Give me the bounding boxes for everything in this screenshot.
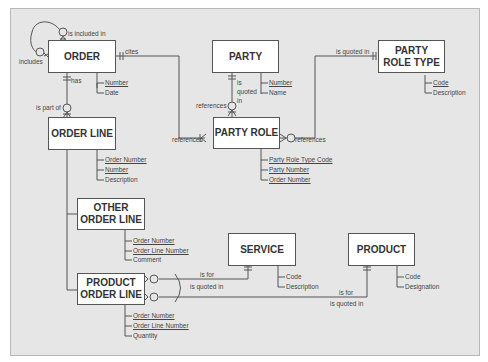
rel-order-includes: includes — [19, 58, 43, 66]
attr-order-date: Date — [105, 89, 119, 97]
entity-other-order-line[interactable]: OTHERORDER LINE — [77, 198, 145, 230]
entity-service-name: SERVICE — [240, 244, 284, 256]
attr-party-role-type-code: Code — [433, 79, 449, 87]
rel-party-role-references-order: references — [172, 136, 203, 144]
attr-order-number: Number — [105, 79, 128, 87]
entity-party-role-type[interactable]: PARTYROLE TYPE — [378, 40, 445, 73]
attr-service-description: Description — [286, 283, 319, 291]
attr-party-number: Number — [269, 79, 292, 87]
rel-party-is-quoted-in: is quoted in — [237, 78, 257, 105]
attr-party-role-type-code-fk: Party Role Type Code — [269, 156, 332, 164]
entity-order-name: ORDER — [64, 51, 100, 63]
attr-order-line-order-number: Order Number — [105, 156, 147, 164]
rel-order-cites: cites — [125, 48, 138, 56]
entity-other-order-line-name-line1: OTHER — [94, 202, 129, 214]
entity-party-role-type-name-line2: ROLE TYPE — [383, 57, 440, 69]
entity-product-name: PRODUCT — [357, 244, 406, 256]
rel-pol-service-is-quoted-in: is quoted in — [190, 283, 223, 291]
rel-pol-is-for-service: is for — [200, 271, 214, 279]
rel-order-has: has — [71, 77, 81, 85]
rel-order-line-is-part-of: is part of — [36, 104, 61, 112]
entity-service[interactable]: SERVICE — [228, 233, 296, 266]
entity-order-line-name: ORDER LINE — [51, 128, 113, 140]
attr-other-order-line-line-number: Order Line Number — [133, 247, 189, 255]
attr-party-name: Name — [269, 89, 286, 97]
attr-product-code: Code — [405, 273, 421, 281]
attr-other-order-line-comment: Comment — [133, 256, 161, 264]
entity-party-role-name: PARTY ROLE — [215, 127, 279, 139]
rel-party-role-references-party: references — [196, 102, 227, 110]
rel-pol-product-is-quoted-in: is quoted in — [330, 300, 363, 308]
entity-other-order-line-name-line2: ORDER LINE — [80, 214, 142, 226]
attr-order-line-number: Number — [105, 166, 128, 174]
attr-other-order-line-order-number: Order Number — [133, 237, 175, 245]
entity-product[interactable]: PRODUCT — [348, 233, 415, 266]
entity-party-role-type-name-line1: PARTY — [395, 45, 428, 57]
attr-order-line-description: Description — [105, 176, 138, 184]
attr-service-code: Code — [286, 273, 302, 281]
attr-product-order-line-order-number: Order Number — [133, 312, 175, 320]
attr-party-role-party-number: Party Number — [269, 166, 309, 174]
rel-order-is-included-in: is included in — [68, 30, 106, 38]
attr-party-role-type-description: Description — [433, 89, 466, 97]
rel-party-role-type-is-quoted-in: is quoted in — [336, 48, 369, 56]
attr-product-order-line-line-number: Order Line Number — [133, 322, 189, 330]
entity-party-role[interactable]: PARTY ROLE — [213, 117, 280, 149]
attr-party-role-order-number: Order Number — [269, 176, 311, 184]
attr-product-designation: Designation — [405, 283, 439, 291]
rel-party-role-references-type: references — [295, 136, 326, 144]
rel-pol-is-for-product: is for — [339, 289, 353, 297]
entity-product-order-line-name-line2: ORDER LINE — [80, 289, 142, 301]
entity-product-order-line-name-line1: PRODUCT — [86, 277, 135, 289]
entity-product-order-line[interactable]: PRODUCTORDER LINE — [77, 273, 145, 305]
entity-party-name: PARTY — [229, 51, 262, 63]
entity-party[interactable]: PARTY — [212, 40, 279, 73]
attr-product-order-line-quantity: Quantity — [133, 332, 157, 340]
entity-order-line[interactable]: ORDER LINE — [48, 117, 116, 150]
entity-order[interactable]: ORDER — [48, 40, 116, 73]
